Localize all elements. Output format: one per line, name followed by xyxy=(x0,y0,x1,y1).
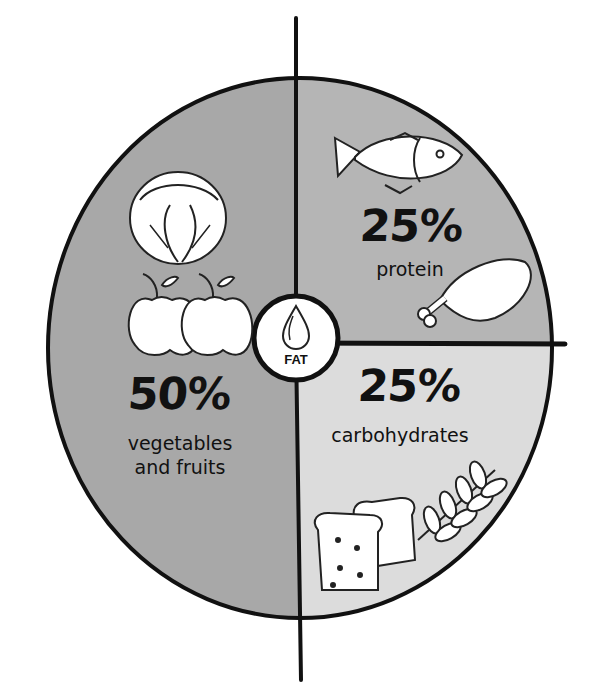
vegetables-percent: 50% xyxy=(126,368,230,419)
cabbage-icon xyxy=(130,172,226,264)
carbohydrates-caption: carbohydrates xyxy=(310,424,490,446)
protein-caption: protein xyxy=(350,258,470,280)
plate-diagram xyxy=(0,0,601,691)
protein-percent: 25% xyxy=(358,200,462,251)
carbohydrates-percent: 25% xyxy=(356,360,460,411)
vegetables-caption-line2: and fruits xyxy=(110,456,250,478)
fat-circle xyxy=(254,296,338,380)
vegetables-caption-line1: vegetables xyxy=(110,432,250,454)
fat-label: FAT xyxy=(276,352,316,367)
